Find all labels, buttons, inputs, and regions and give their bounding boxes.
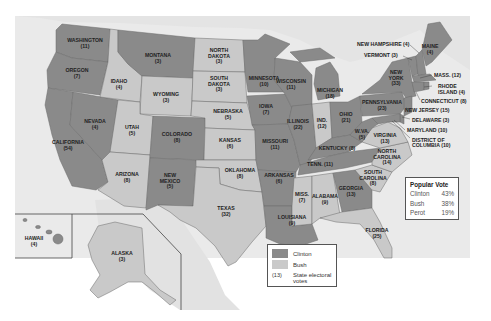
label-az-ev: (8) [124,177,131,183]
label-md: MARYLAND (10) [407,127,447,133]
label-ms-ev: (7) [299,197,306,203]
legend-item-bush: Bush [272,260,307,269]
label-nh: NEW HAMPSHIRE (4) [357,41,410,47]
svg-text:IND.(12): IND.(12) [317,117,328,129]
legend-item-ev: (13) State electoral votes [272,272,331,284]
pv-candidate: Bush [410,199,424,209]
popular-vote-title: Popular Vote [410,181,454,188]
state-rhode-island[interactable] [424,82,429,90]
state-hawaii-oahu[interactable] [36,225,41,228]
label-ia-ev: (7) [263,109,270,115]
label-pa-ev: (23) [377,105,386,111]
label-ut-ev: (5) [129,130,136,136]
label-nv-ev: (4) [92,124,99,130]
election-map: WASHINGTON(11) OREGON(7) CALIFORNIA(54) … [0,0,491,321]
label-ri-2: ISLAND (4) [438,89,465,95]
label-mn-ev: (10) [259,81,268,87]
state-hawaii-maui[interactable] [46,230,52,234]
label-vt: VERMONT (3) [364,52,398,58]
svg-text:KENTUCKY (8): KENTUCKY (8) [319,145,356,151]
label-nc-ev: (14) [382,159,391,165]
state-iowa[interactable] [247,94,292,125]
label-tn: TENN. (11) [307,161,333,167]
label-co-ev: (8) [174,137,181,143]
label-nd-ev: (3) [216,58,223,64]
pv-candidate: Clinton [410,189,430,199]
popular-vote-row-clinton: Clinton 43% [410,189,454,199]
label-wi-ev: (11) [287,84,296,90]
legend-label-bush: Bush [293,262,307,268]
label-ky: KENTUCKY (8) [319,145,356,151]
label-dc-2: COLUMBIA (10) [412,142,451,148]
label-mo-ev: (11) [271,144,280,150]
pv-candidate: Perot [410,208,425,218]
label-ct: CONNECTICUT (8) [421,98,467,104]
label-ga-ev: (13) [346,191,355,197]
label-ma: MASS. (12) [434,72,461,78]
label-ny-ev: (33) [391,80,400,86]
label-mt-ev: (3) [155,58,162,64]
state-hawaii-big[interactable] [53,234,63,244]
label-nm-ev: (5) [167,183,174,189]
label-sc-ev: (8) [370,180,377,186]
state-delaware[interactable] [400,114,404,124]
pv-pct: 38% [441,199,454,209]
pv-pct: 19% [441,208,454,218]
state-connecticut[interactable] [412,82,424,92]
label-il-ev: (22) [293,124,302,130]
popular-vote-row-perot: Perot 19% [410,208,454,218]
legend-label-clinton: Clinton [293,251,312,257]
label-me-ev: (4) [427,49,434,55]
bush-swatch [272,260,288,269]
label-va-ev: (13) [380,138,389,144]
label-de: DELAWARE (3) [412,117,449,123]
label-la-ev: (9) [289,220,296,226]
label-sd-ev: (3) [216,86,223,92]
label-wy-ev: (3) [163,97,170,103]
legend-ev-sample: (13) [272,272,288,278]
label-tx-ev: (32) [221,211,230,217]
label-id-ev: (4) [116,84,123,90]
pv-pct: 43% [441,189,454,199]
label-ne-ev: (5) [225,114,232,120]
map-legend: Clinton Bush (13) State electoral votes [267,244,337,287]
label-ca-ev: (54) [63,145,72,151]
label-mi-ev: (18) [325,93,334,99]
label-hi-ev: (4) [31,241,38,247]
label-fl-ev: (25) [372,233,381,239]
label-ks-ev: (6) [227,143,234,149]
legend-item-clinton: Clinton [272,249,312,258]
legend-ev-label-2: votes [293,278,331,284]
label-ok-ev: (8) [237,173,244,179]
state-hawaii-kauai[interactable] [23,218,27,221]
label-wv-ev: (5) [359,134,366,140]
label-nj: NEW JERSEY (15) [405,107,450,113]
svg-text:TENN. (11): TENN. (11) [307,161,333,167]
clinton-swatch [272,249,288,258]
popular-vote-row-bush: Bush 38% [410,199,454,209]
label-wa-ev: (11) [81,43,90,49]
label-oh-ev: (21) [341,117,350,123]
label-or-ev: (7) [74,73,81,79]
label-in-ev: (12) [317,123,326,129]
label-al-ev: (9) [322,199,329,205]
label-ak-ev: (3) [119,256,126,262]
popular-vote-box: Popular Vote Clinton 43% Bush 38% Perot … [405,177,459,220]
label-ar-ev: (6) [276,178,283,184]
